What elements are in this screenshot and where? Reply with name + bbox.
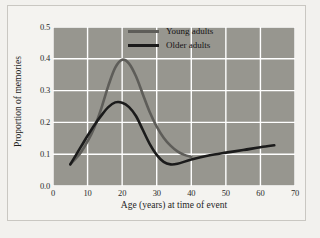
x-tick-label: 20 [111,188,133,198]
y-tick-label: 0.2 [26,118,50,127]
x-tick-label: 50 [215,188,237,198]
x-tick-label: 70 [284,188,306,198]
x-tick-label: 60 [249,188,271,198]
chart-figure: Proportion of memories 0.00.10.20.30.40.… [0,0,320,238]
y-tick-label: 0.1 [26,150,50,159]
legend-label-young-adults: Young adults [166,26,213,36]
chart-legend: Young adults Older adults [128,24,240,52]
y-tick-label: 0.5 [26,23,50,32]
x-tick-label: 30 [146,188,168,198]
y-tick-label: 0.3 [26,86,50,95]
y-tick-label: 0.4 [26,54,50,63]
x-axis-ticks: 010203040506070 [53,188,295,200]
x-axis-title: Age (years) at time of event [53,200,295,211]
x-tick-label: 40 [180,188,202,198]
y-axis-title: Proportion of memories [13,22,24,182]
legend-item-young-adults: Young adults [128,24,240,38]
x-tick-label: 10 [77,188,99,198]
legend-label-older-adults: Older adults [166,40,210,50]
legend-swatch-older-adults [128,44,159,47]
legend-item-older-adults: Older adults [128,38,240,52]
y-axis-ticks: 0.00.10.20.30.40.5 [24,27,50,186]
legend-swatch-young-adults [128,30,159,33]
x-tick-label: 0 [42,188,64,198]
